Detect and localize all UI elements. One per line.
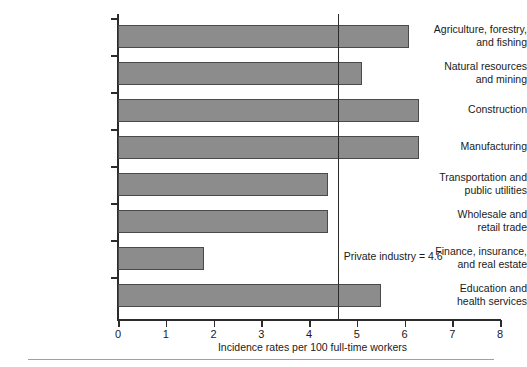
x-axis-tick-label: 6 bbox=[390, 328, 420, 340]
reference-line-label: Private industry = 4.6 bbox=[344, 250, 443, 262]
y-axis-tick bbox=[111, 92, 117, 94]
y-axis-line bbox=[117, 14, 119, 320]
category-label: Transportation and public utilities bbox=[415, 171, 527, 196]
bar bbox=[118, 99, 419, 122]
x-axis-tick bbox=[261, 320, 263, 327]
bar bbox=[118, 284, 381, 307]
x-axis-title-text: Incidence rates per 100 full-time worker… bbox=[120, 341, 407, 353]
category-label: Construction bbox=[415, 103, 527, 116]
y-axis-tick bbox=[111, 166, 117, 168]
category-label: Manufacturing bbox=[415, 140, 527, 153]
bar bbox=[118, 62, 362, 85]
bar bbox=[118, 247, 204, 270]
x-axis-tick-label: 4 bbox=[294, 328, 324, 340]
x-axis-tick-label: 3 bbox=[246, 328, 276, 340]
reference-line bbox=[338, 14, 340, 320]
x-axis-tick-label: 0 bbox=[103, 328, 133, 340]
x-axis-tick-label: 5 bbox=[342, 328, 372, 340]
category-label: Agriculture, forestry, and fishing bbox=[415, 23, 527, 48]
y-axis-tick bbox=[111, 203, 117, 205]
bar bbox=[118, 136, 419, 159]
x-axis-tick bbox=[500, 320, 502, 327]
x-axis-tick-label: 1 bbox=[151, 328, 181, 340]
y-axis-tick bbox=[111, 129, 117, 131]
x-axis-tick bbox=[357, 320, 359, 327]
y-axis-tick bbox=[111, 55, 117, 57]
x-axis-tick bbox=[118, 320, 120, 327]
x-axis-tick bbox=[166, 320, 168, 327]
y-axis-tick bbox=[111, 18, 117, 20]
x-axis-tick-label: 8 bbox=[485, 328, 515, 340]
bar bbox=[118, 210, 328, 233]
x-axis-tick bbox=[309, 320, 311, 327]
y-axis-tick bbox=[111, 240, 117, 242]
x-axis-tick-label: 7 bbox=[437, 328, 467, 340]
y-axis-tick bbox=[111, 277, 117, 279]
x-axis-tick bbox=[452, 320, 454, 327]
bar-chart-figure: Agriculture, forestry, and fishingNatura… bbox=[0, 0, 527, 367]
category-label: Education and health services bbox=[415, 282, 527, 307]
x-axis-tick bbox=[214, 320, 216, 327]
bar bbox=[118, 173, 328, 196]
bottom-divider bbox=[28, 359, 494, 360]
x-axis-tick bbox=[405, 320, 407, 327]
category-label: Natural resources and mining bbox=[415, 60, 527, 85]
x-axis-title: Incidence rates per 100 full-time worker… bbox=[0, 341, 527, 353]
bar bbox=[118, 25, 409, 48]
x-axis-tick-label: 2 bbox=[199, 328, 229, 340]
category-label: Wholesale and retail trade bbox=[415, 208, 527, 233]
